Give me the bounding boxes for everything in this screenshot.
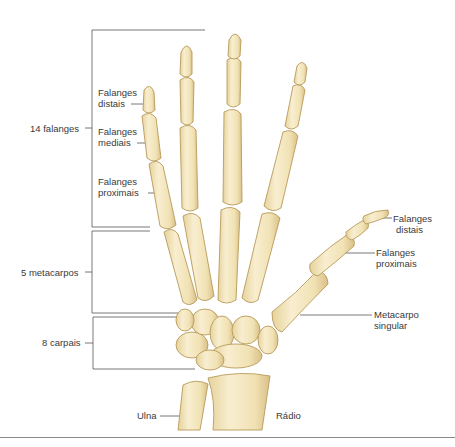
- label-text: 8 carpais: [42, 337, 81, 348]
- label-distal-phalanges: Falanges distais: [98, 87, 137, 109]
- label-line: Falanges: [98, 87, 137, 98]
- label-text: Ulna: [137, 410, 157, 421]
- index-finger-bones: [242, 62, 307, 302]
- label-thumb-proximal-phalanx: Falanges proximais: [376, 247, 417, 269]
- label-proximal-phalanges: Falanges proximais: [98, 176, 139, 198]
- label-middle-phalanges: Falanges mediais: [98, 126, 137, 148]
- label-line: Falanges: [393, 213, 432, 224]
- group-label-phalanges: 14 falanges: [30, 123, 79, 134]
- radius-bone: [208, 373, 270, 430]
- label-line: proximais: [98, 187, 139, 198]
- label-text: 14 falanges: [30, 123, 79, 134]
- label-radius: Rádio: [276, 410, 301, 421]
- group-label-metacarpals: 5 metacarpos: [21, 267, 79, 278]
- label-text: 5 metacarpos: [21, 267, 79, 278]
- hand-skeleton-illustration: [0, 0, 455, 447]
- label-line: Metacarpo: [374, 309, 419, 320]
- label-line: singular: [374, 320, 419, 331]
- bones: [142, 34, 389, 430]
- label-line: mediais: [98, 137, 137, 148]
- thumb-bones: [272, 210, 389, 332]
- label-line: Falanges: [98, 176, 139, 187]
- label-line: proximais: [376, 258, 417, 269]
- carpal-bones: [176, 309, 278, 370]
- label-line: Falanges: [376, 247, 417, 258]
- label-ulna: Ulna: [137, 410, 157, 421]
- label-single-metacarpal: Metacarpo singular: [374, 309, 419, 331]
- middle-finger-bones: [218, 34, 242, 303]
- ulna-bone: [178, 381, 208, 430]
- label-line: Falanges: [98, 126, 137, 137]
- label-line: distais: [98, 98, 137, 109]
- label-line: distais: [393, 224, 432, 235]
- label-thumb-distal-phalanx: Falanges distais: [393, 213, 432, 235]
- bottom-divider: [0, 437, 455, 438]
- group-label-carpals: 8 carpais: [42, 337, 81, 348]
- label-text: Rádio: [276, 410, 301, 421]
